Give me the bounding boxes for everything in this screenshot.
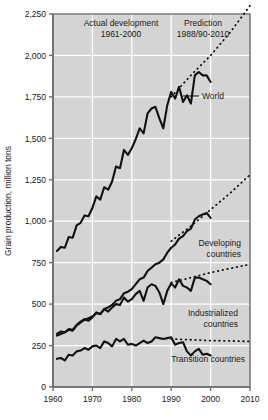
series-label-developing-line2: countries xyxy=(207,249,242,259)
y-tick-label: 1,250 xyxy=(25,175,47,185)
panel-subtitle-actual: 1961-2000 xyxy=(101,29,142,39)
y-axis-title: Grain production, million tons xyxy=(3,146,13,256)
panel-title-actual: Actual development xyxy=(84,18,159,28)
panel-subtitle-prediction: 1988/90-2010 xyxy=(177,29,230,39)
x-tick-label: 2000 xyxy=(201,394,220,404)
panel-title-prediction: Prediction xyxy=(184,18,222,28)
chart-svg: 02505007501,0001,2501,5001,7502,0002,250… xyxy=(0,0,268,420)
series-label-industrialized-line1: Industrialized xyxy=(188,308,238,318)
x-tick-label: 1970 xyxy=(83,394,102,404)
y-tick-label: 1,500 xyxy=(25,134,47,144)
y-tick-label: 1,750 xyxy=(25,92,47,102)
series-label-transition: Transition countries xyxy=(171,354,245,364)
y-tick-label: 250 xyxy=(32,341,46,351)
x-tick-label: 1980 xyxy=(122,394,141,404)
x-tick-label: 1960 xyxy=(44,394,63,404)
series-label-world: World xyxy=(202,91,224,101)
y-tick-label: 750 xyxy=(32,258,46,268)
series-label-industrialized-line2: countries xyxy=(204,319,239,329)
series-label-developing-line1: Developing xyxy=(198,238,241,248)
y-tick-labels: 02505007501,0001,2501,5001,7502,0002,250 xyxy=(25,9,53,392)
plot-background xyxy=(53,14,250,387)
x-tick-labels: 196019701980199020002010 xyxy=(44,387,260,404)
x-tick-label: 1990 xyxy=(162,394,181,404)
x-tick-label: 2010 xyxy=(241,394,260,404)
y-tick-label: 0 xyxy=(41,382,46,392)
y-tick-label: 500 xyxy=(32,299,46,309)
y-tick-label: 1,000 xyxy=(25,216,47,226)
y-tick-label: 2,000 xyxy=(25,51,47,61)
grain-production-chart: 02505007501,0001,2501,5001,7502,0002,250… xyxy=(0,0,268,420)
y-tick-label: 2,250 xyxy=(25,9,47,19)
